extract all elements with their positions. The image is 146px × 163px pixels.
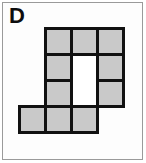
shape-cell-empty	[18, 53, 47, 82]
shape-cell-empty	[96, 105, 125, 134]
shape-cell-filled	[44, 27, 73, 56]
shape-cell-empty	[18, 79, 47, 108]
shape-cell-filled	[96, 53, 125, 82]
shape-cell-hole	[70, 53, 99, 82]
shape-cell-filled	[96, 79, 125, 108]
shape-cell-filled	[44, 79, 73, 108]
shape-cell-filled	[18, 105, 47, 134]
shape-cell-filled	[70, 105, 99, 134]
shape-cell-filled	[44, 53, 73, 82]
figure-panel: D	[0, 0, 146, 163]
shape-cell-hole	[70, 79, 99, 108]
shape-cell-filled	[70, 27, 99, 56]
polyomino-shape-grid	[18, 27, 134, 146]
panel-letter-label: D	[9, 4, 25, 28]
shape-cell-filled	[96, 27, 125, 56]
shape-cell-filled	[44, 105, 73, 134]
shape-cell-empty	[18, 27, 47, 56]
